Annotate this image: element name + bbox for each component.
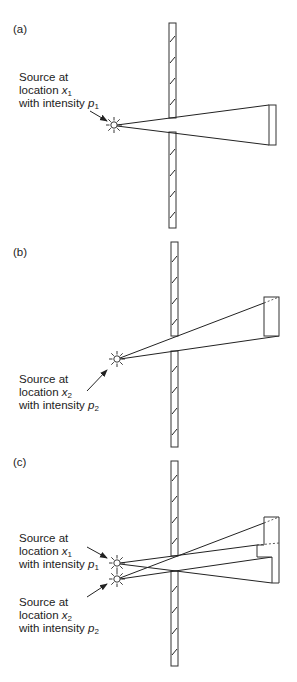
panel-b: (b) Source at location x2 with in <box>13 242 279 447</box>
pinhole-diagram: (a) Source at location x1 with inte <box>0 0 297 682</box>
radiating-sun-icon <box>106 117 122 133</box>
barrier-wall <box>171 461 178 666</box>
svg-text:with intensity p1: with intensity p1 <box>18 97 99 111</box>
svg-text:with intensity p2: with intensity p2 <box>18 399 99 413</box>
svg-text:location x2: location x2 <box>19 386 73 400</box>
barrier-wall <box>169 23 176 228</box>
svg-text:Source at: Source at <box>19 596 69 608</box>
detector <box>264 297 279 336</box>
radiating-sun-icon <box>109 571 125 587</box>
svg-text:with intensity p2: with intensity p2 <box>18 622 99 636</box>
panel-label-a: (a) <box>13 23 27 35</box>
panel-c: (c) <box>13 456 279 666</box>
detector <box>269 105 276 145</box>
svg-text:location x1: location x1 <box>19 545 73 559</box>
svg-text:location x2: location x2 <box>19 609 73 623</box>
svg-text:Source at: Source at <box>19 71 69 83</box>
source-label: Source at location x2 with intensity p2 <box>18 373 99 413</box>
panel-a: (a) Source at location x1 with inte <box>13 23 276 228</box>
light-rays <box>117 105 269 145</box>
radiating-sun-icon <box>109 555 125 571</box>
svg-text:Source at: Source at <box>19 373 69 385</box>
light-rays <box>120 523 272 583</box>
source-label: Source at location x2 with intensity p2 <box>18 596 99 636</box>
panel-label-b: (b) <box>13 246 27 258</box>
svg-text:with intensity p1: with intensity p1 <box>18 558 99 572</box>
panel-label-c: (c) <box>13 456 27 468</box>
svg-text:location x1: location x1 <box>19 84 73 98</box>
radiating-sun-icon <box>109 351 125 367</box>
detector <box>257 517 279 583</box>
pointer-arrow <box>87 584 107 597</box>
light-rays <box>120 303 279 359</box>
pointer-arrow <box>87 370 107 391</box>
source-label: Source at location x1 with intensity p1 <box>18 71 99 111</box>
pointer-arrow <box>87 547 107 558</box>
svg-text:Source at: Source at <box>19 532 69 544</box>
pointer-arrow <box>90 111 107 121</box>
source-label: Source at location x1 with intensity p1 <box>18 532 99 572</box>
barrier-wall <box>171 242 178 447</box>
